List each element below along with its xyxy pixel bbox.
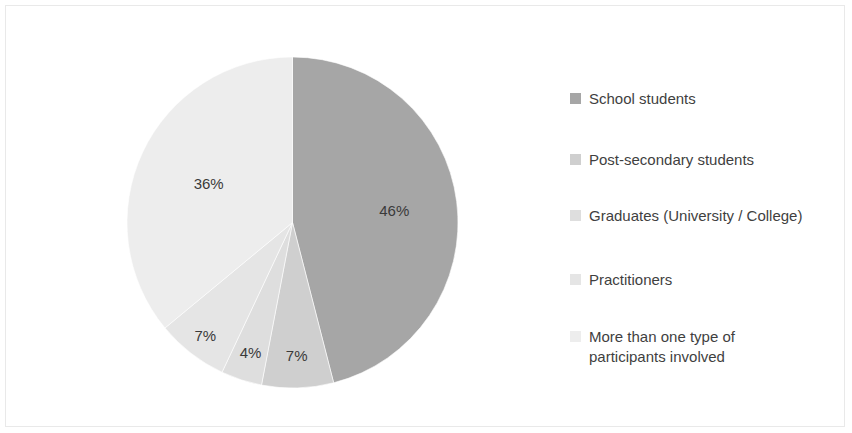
legend-item[interactable]: Post-secondary students bbox=[570, 150, 754, 170]
pie-data-label: 36% bbox=[194, 175, 224, 192]
pie-data-label: 4% bbox=[240, 343, 262, 360]
pie-data-label: 7% bbox=[286, 346, 308, 363]
legend-item-label: More than one type of participants invol… bbox=[589, 327, 735, 367]
legend-swatch-icon bbox=[570, 331, 581, 342]
legend-item[interactable]: More than one type of participants invol… bbox=[570, 327, 735, 367]
legend-item[interactable]: Graduates (University / College) bbox=[570, 206, 802, 226]
legend-item-label: Graduates (University / College) bbox=[589, 206, 802, 226]
pie-chart: 46%7%4%7%36% bbox=[127, 57, 458, 388]
legend-swatch-icon bbox=[570, 274, 581, 285]
chart-frame: 46%7%4%7%36% School studentsPost-seconda… bbox=[5, 5, 845, 427]
pie-data-label: 7% bbox=[194, 326, 216, 343]
pie-svg bbox=[127, 57, 458, 388]
legend-swatch-icon bbox=[570, 93, 581, 104]
legend-item[interactable]: School students bbox=[570, 89, 696, 109]
legend-item-label: Practitioners bbox=[589, 270, 672, 290]
chart-canvas: 46%7%4%7%36% School studentsPost-seconda… bbox=[0, 0, 852, 433]
pie-data-label: 46% bbox=[379, 201, 409, 218]
legend-swatch-icon bbox=[570, 154, 581, 165]
pie-slice-group bbox=[127, 57, 458, 388]
legend-item[interactable]: Practitioners bbox=[570, 270, 672, 290]
legend-item-label: School students bbox=[589, 89, 696, 109]
legend-swatch-icon bbox=[570, 210, 581, 221]
legend-item-label: Post-secondary students bbox=[589, 150, 754, 170]
